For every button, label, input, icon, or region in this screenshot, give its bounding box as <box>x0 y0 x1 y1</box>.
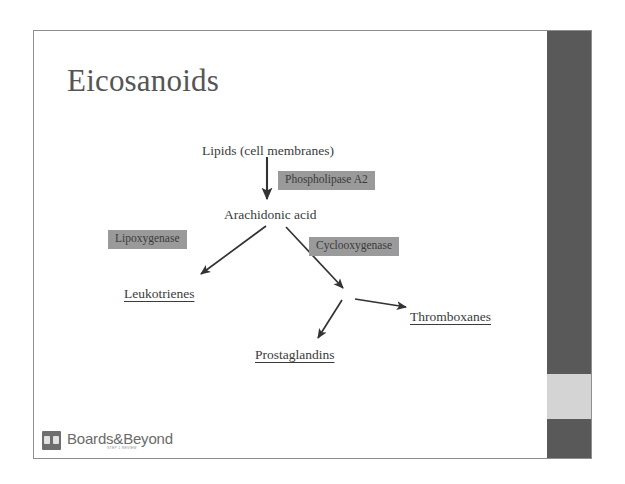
brand-name: Boards&Beyond <box>67 431 173 446</box>
boards-and-beyond-mark-icon <box>42 431 61 450</box>
brand-logo-text-wrap: Boards&Beyond STEP 1 REVIEW <box>67 431 173 450</box>
node-arachidonic-acid: Arachidonic acid <box>224 208 317 222</box>
arrow-branch-to-thromboxanes <box>355 299 406 307</box>
slide-side-bar <box>547 31 591 458</box>
node-leukotrienes: Leukotrienes <box>124 287 194 301</box>
brand-tagline: STEP 1 REVIEW <box>107 447 173 450</box>
node-thromboxanes: Thromboxanes <box>410 310 491 324</box>
enzyme-phospholipase-a2: Phospholipase A2 <box>278 171 375 190</box>
brand-logo: Boards&Beyond STEP 1 REVIEW <box>42 431 173 450</box>
slide: Eicosanoids Lipids (cell membranes) Phos… <box>33 30 592 459</box>
arrow-branch-to-prostaglandins <box>318 300 342 338</box>
arrow-arachidonic-to-leukotrienes <box>201 226 266 274</box>
slide-side-bar-accent <box>547 374 591 419</box>
node-prostaglandins: Prostaglandins <box>255 348 335 362</box>
node-lipids: Lipids (cell membranes) <box>202 144 334 158</box>
eicosanoid-pathway-diagram: Lipids (cell membranes) Phospholipase A2… <box>34 31 549 459</box>
enzyme-cyclooxygenase: Cyclooxygenase <box>309 237 399 256</box>
enzyme-lipoxygenase: Lipoxygenase <box>108 230 187 249</box>
